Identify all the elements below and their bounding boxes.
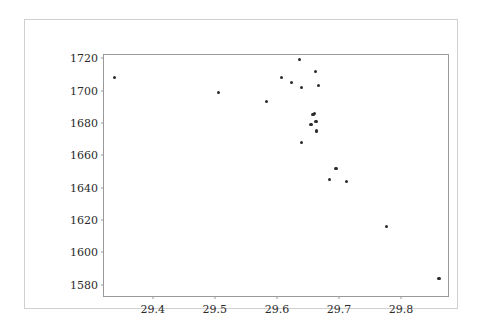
x-axis-tick-label: 29.8 <box>389 296 414 316</box>
data-point <box>309 123 312 126</box>
data-point <box>314 70 317 73</box>
x-axis-tick-label: 29.7 <box>327 296 352 316</box>
y-axis-tick-label: 1600 <box>70 246 104 259</box>
y-axis-tick-mark <box>101 155 104 156</box>
y-axis-tick-label: 1680 <box>70 116 104 129</box>
data-point <box>265 100 268 103</box>
y-axis-tick-label: 1620 <box>70 213 104 226</box>
scatter-plot-axes: 15801600162016401660168017001720 29.429.… <box>103 54 449 297</box>
x-axis-tick-mark <box>214 296 215 299</box>
x-axis-tick-mark <box>276 296 277 299</box>
data-point <box>217 91 220 94</box>
data-point <box>437 277 440 280</box>
data-point <box>328 178 331 181</box>
data-point <box>290 81 293 84</box>
x-axis-tick-mark <box>152 296 153 299</box>
y-axis-tick-mark <box>101 187 104 188</box>
y-axis-tick-label: 1660 <box>70 149 104 162</box>
y-axis-tick-mark <box>101 284 104 285</box>
data-point <box>385 225 388 228</box>
data-point <box>298 58 301 61</box>
data-point <box>334 167 337 170</box>
data-point <box>300 86 303 89</box>
y-axis-tick-mark <box>101 90 104 91</box>
screenshot-root: 15801600162016401660168017001720 29.429.… <box>0 0 484 327</box>
figure-frame: 15801600162016401660168017001720 29.429.… <box>24 19 458 309</box>
data-point <box>315 129 318 132</box>
data-point <box>280 76 283 79</box>
x-axis-tick-label: 29.6 <box>265 296 290 316</box>
y-axis-tick-mark <box>101 122 104 123</box>
y-axis-tick-label: 1720 <box>70 52 104 65</box>
x-axis-tick-mark <box>401 296 402 299</box>
data-point <box>313 112 316 115</box>
data-point <box>317 84 320 87</box>
y-axis-tick-mark <box>101 252 104 253</box>
data-point <box>345 180 348 183</box>
plot-area <box>104 55 448 296</box>
data-point <box>314 120 317 123</box>
x-axis-tick-label: 29.4 <box>140 296 165 316</box>
y-axis-tick-label: 1640 <box>70 181 104 194</box>
y-axis-tick-mark <box>101 219 104 220</box>
y-axis-tick-label: 1580 <box>70 278 104 291</box>
y-axis-tick-mark <box>101 58 104 59</box>
y-axis-tick-label: 1700 <box>70 84 104 97</box>
x-axis-tick-label: 29.5 <box>203 296 228 316</box>
x-axis-tick-mark <box>339 296 340 299</box>
data-point <box>300 141 303 144</box>
data-point <box>113 76 116 79</box>
